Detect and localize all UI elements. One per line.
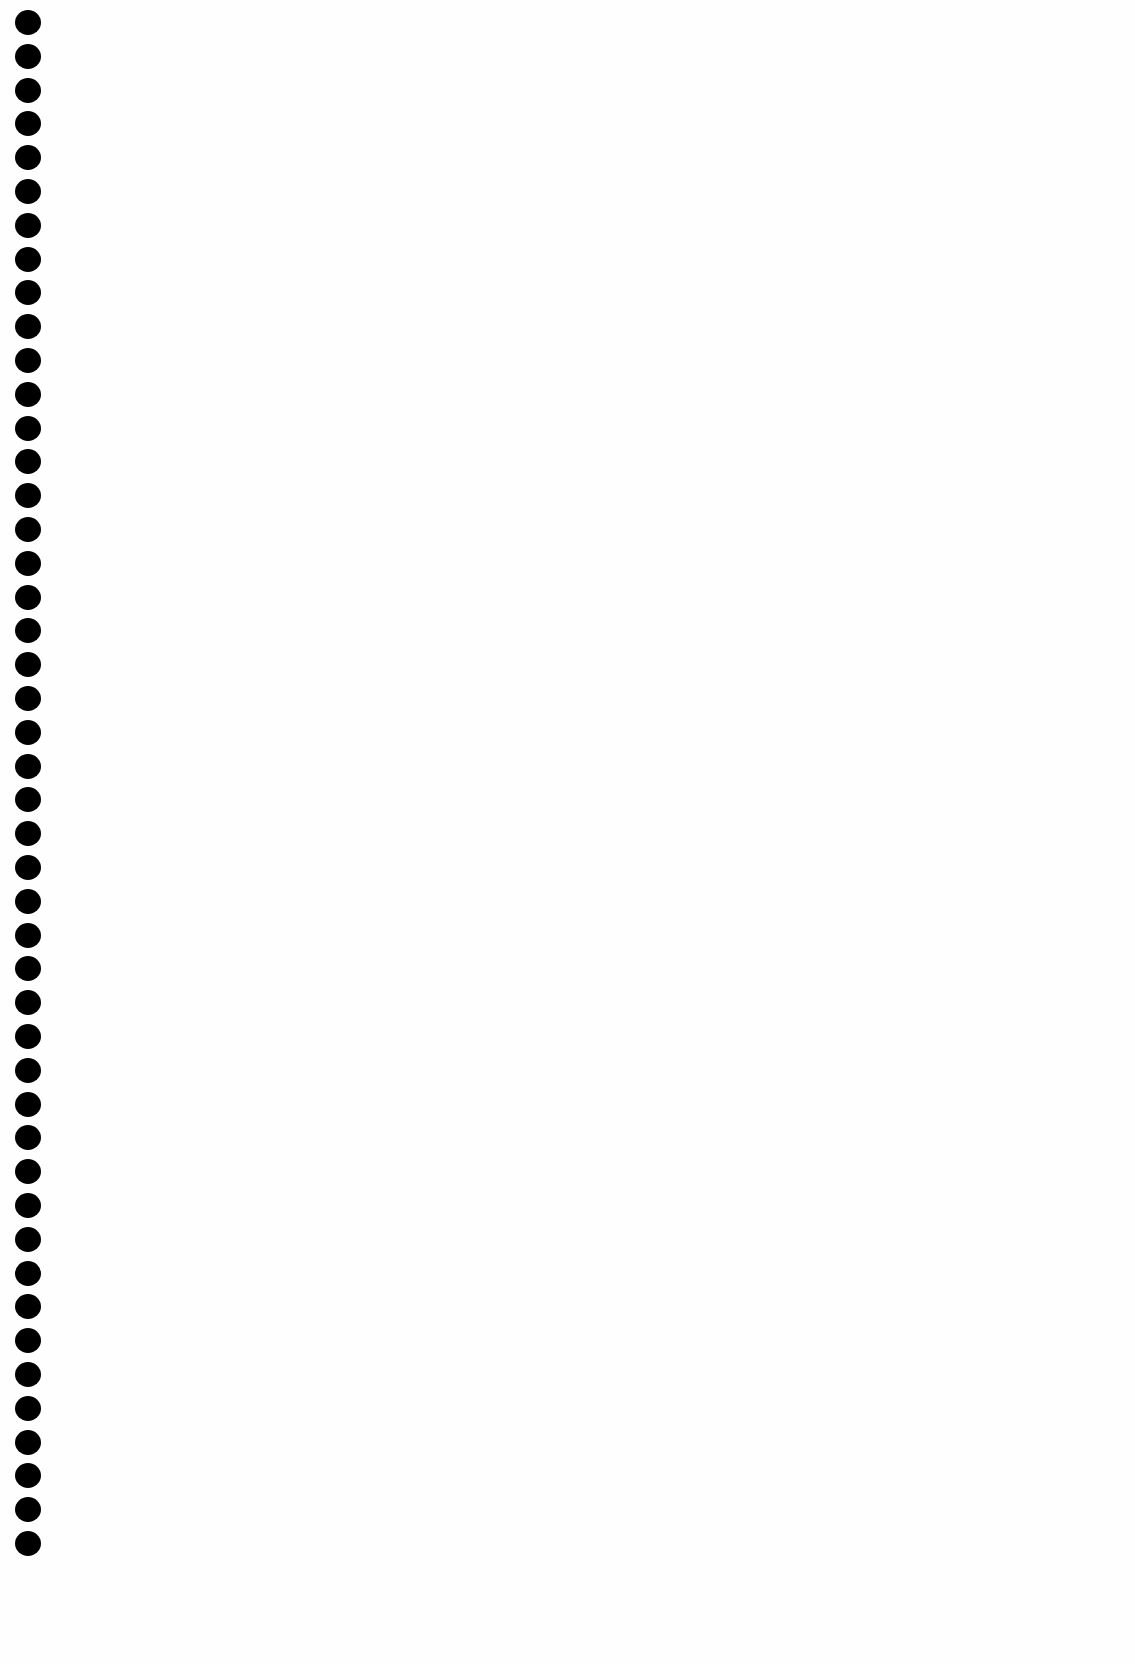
binding-hole-icon <box>15 754 41 779</box>
binding-hole-icon <box>15 618 41 643</box>
binding-hole-icon <box>15 1463 41 1488</box>
spiral-binding-holes <box>0 0 60 1664</box>
binding-hole-icon <box>15 1058 41 1083</box>
binding-hole-icon <box>15 1125 41 1150</box>
binding-hole-icon <box>15 1227 41 1252</box>
binding-hole-icon <box>15 280 41 305</box>
binding-hole-icon <box>15 1430 41 1455</box>
binding-hole-icon <box>15 1396 41 1421</box>
binding-hole-icon <box>15 855 41 880</box>
binding-hole-icon <box>15 1193 41 1218</box>
binding-hole-icon <box>15 213 41 238</box>
binding-hole-icon <box>15 1159 41 1184</box>
binding-hole-icon <box>15 1362 41 1387</box>
binding-hole-icon <box>15 652 41 677</box>
binding-hole-icon <box>15 382 41 407</box>
binding-hole-icon <box>15 483 41 508</box>
binding-hole-icon <box>15 923 41 948</box>
binding-hole-icon <box>15 1497 41 1522</box>
binding-hole-icon <box>15 1328 41 1353</box>
binding-hole-icon <box>15 889 41 914</box>
binding-hole-icon <box>15 247 41 272</box>
binding-hole-icon <box>15 517 41 542</box>
binding-hole-icon <box>15 787 41 812</box>
binding-hole-icon <box>15 1261 41 1286</box>
binding-hole-icon <box>15 44 41 69</box>
binding-hole-icon <box>15 1294 41 1319</box>
notebook-page <box>0 0 1135 1664</box>
binding-hole-icon <box>15 145 41 170</box>
binding-hole-icon <box>15 348 41 373</box>
binding-hole-icon <box>15 314 41 339</box>
binding-hole-icon <box>15 1092 41 1117</box>
blank-writing-area <box>60 0 1135 1664</box>
binding-hole-icon <box>15 449 41 474</box>
binding-hole-icon <box>15 78 41 103</box>
binding-hole-icon <box>15 686 41 711</box>
binding-hole-icon <box>15 821 41 846</box>
binding-hole-icon <box>15 1024 41 1049</box>
binding-hole-icon <box>15 720 41 745</box>
binding-hole-icon <box>15 990 41 1015</box>
binding-hole-icon <box>15 10 41 35</box>
binding-hole-icon <box>15 551 41 576</box>
binding-hole-icon <box>15 416 41 441</box>
binding-hole-icon <box>15 956 41 981</box>
binding-hole-icon <box>15 179 41 204</box>
binding-hole-icon <box>15 585 41 610</box>
binding-hole-icon <box>15 111 41 136</box>
binding-hole-icon <box>15 1531 41 1556</box>
